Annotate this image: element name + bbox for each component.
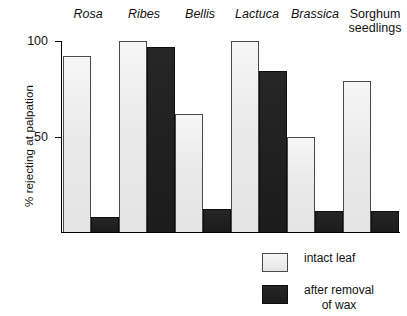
legend-label-after-removal-of-wax: after removal of wax [304, 283, 374, 313]
legend-label-line2: of wax [304, 298, 374, 313]
y-tick-mark-100 [55, 41, 61, 42]
category-label-lactuca: Lactuca [226, 7, 288, 21]
legend-item-intact-leaf: intact leaf [262, 251, 407, 283]
y-tick-label-50: 50 [8, 130, 48, 144]
category-label-line2: seedlings [344, 21, 406, 35]
category-label-line1: Bellis [185, 7, 215, 21]
legend-swatch-dark-icon [262, 285, 288, 304]
y-tick-label-100: 100 [8, 34, 48, 48]
y-tick-mark-50 [55, 137, 61, 138]
category-label-line1: Sorghum [350, 7, 401, 21]
category-label-line1: Brassica [291, 7, 339, 21]
bar-sorghum-seedlings-after-removal-of-wax [371, 211, 399, 232]
category-label-brassica: Brassica [283, 7, 347, 21]
category-label-bellis: Bellis [172, 7, 228, 21]
x-axis-baseline [61, 232, 400, 233]
bar-bellis-after-removal-of-wax [203, 209, 231, 232]
category-label-line1: Rosa [73, 7, 102, 21]
category-label-line1: Lactuca [235, 7, 279, 21]
bar-chart-figure: % rejecting at palpation 100 50 Rosa Rib… [0, 0, 407, 316]
category-label-ribes: Ribes [116, 7, 172, 21]
bar-lactuca-after-removal-of-wax [259, 71, 287, 232]
legend-label-intact-leaf: intact leaf [304, 251, 355, 266]
category-label-sorghum-seedlings: Sorghum seedlings [344, 7, 406, 35]
legend-item-after-removal-of-wax: after removal of wax [262, 283, 407, 315]
legend-swatch-light-icon [262, 253, 288, 272]
bar-lactuca-intact-leaf [231, 41, 259, 232]
bar-ribes-intact-leaf [119, 41, 147, 232]
bar-ribes-after-removal-of-wax [147, 47, 175, 232]
bar-rosa-after-removal-of-wax [91, 217, 119, 232]
bar-rosa-intact-leaf [63, 56, 91, 232]
legend-label-line1: after removal [304, 283, 374, 297]
bar-brassica-intact-leaf [287, 137, 315, 232]
category-label-line1: Ribes [128, 7, 160, 21]
bar-sorghum-seedlings-intact-leaf [343, 81, 371, 232]
y-axis-title: % rejecting at palpation [23, 56, 35, 236]
category-label-rosa: Rosa [60, 7, 116, 21]
legend-label-line1: intact leaf [304, 251, 355, 265]
bar-bellis-intact-leaf [175, 114, 203, 232]
chart-legend: intact leaf after removal of wax [262, 251, 407, 315]
bar-brassica-after-removal-of-wax [315, 211, 343, 232]
